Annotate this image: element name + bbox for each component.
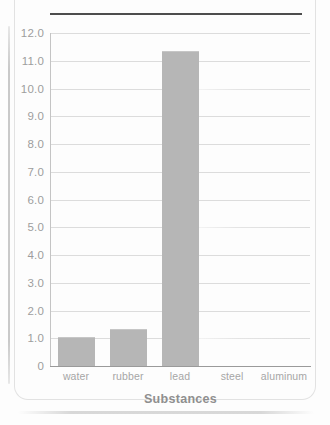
x-axis-tick-label: aluminum xyxy=(261,370,307,382)
x-axis-tick-label: water xyxy=(63,370,89,382)
x-axis-tick-label: steel xyxy=(221,370,244,382)
y-axis-tick-label: 6.0 xyxy=(4,194,44,206)
y-axis-tick-label: 10.0 xyxy=(4,83,44,95)
y-axis-tick-label: 4.0 xyxy=(4,249,44,261)
y-axis-tick-label: 8.0 xyxy=(4,138,44,150)
x-axis-tick-labels: waterrubberleadsteelaluminum xyxy=(50,370,311,388)
x-axis-spine xyxy=(50,366,311,367)
y-axis-tick-label: 5.0 xyxy=(4,221,44,233)
y-axis-tick-label: 7.0 xyxy=(4,166,44,178)
y-axis-tick-label: 1.0 xyxy=(4,332,44,344)
y-axis-tick-label: 3.0 xyxy=(4,277,44,289)
y-axis-tick-label: 12.0 xyxy=(4,27,44,39)
bar-water xyxy=(58,337,95,366)
bar-rubber xyxy=(110,329,147,366)
y-axis-tick-label: 0 xyxy=(4,360,44,372)
x-axis-tick-label: lead xyxy=(170,370,190,382)
y-axis-tick-label: 2.0 xyxy=(4,305,44,317)
y-axis-tick-label: 9.0 xyxy=(4,110,44,122)
bar-chart: 12.011.010.09.08.07.06.05.04.03.02.01.00… xyxy=(0,0,330,425)
y-axis-tick-label: 11.0 xyxy=(4,55,44,67)
x-axis-tick-label: rubber xyxy=(113,370,144,382)
bar-lead xyxy=(162,51,199,366)
bar-series xyxy=(50,33,310,366)
x-axis-title: Substances xyxy=(50,392,311,406)
